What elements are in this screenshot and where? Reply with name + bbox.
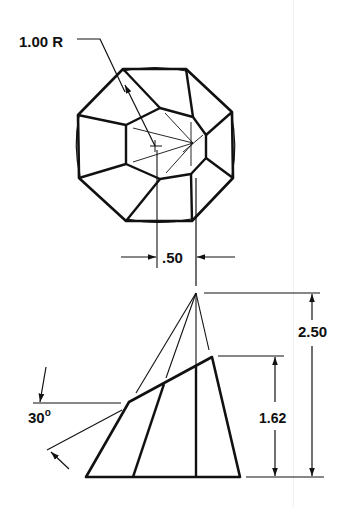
angle-arrow-top (40, 367, 46, 402)
total-height-label: 2.50 (298, 324, 327, 339)
angle-label: 30o (28, 410, 51, 425)
inner-face (126, 108, 206, 179)
offset-dimension-label: .50 (162, 250, 183, 265)
degree-symbol: o (45, 407, 51, 418)
radius-dimension-label: 1.00 R (19, 34, 63, 49)
angle-value: 30 (28, 409, 45, 426)
angle-arrow-bottom (51, 452, 69, 469)
frustum-height-label: 1.62 (259, 411, 286, 425)
technical-drawing: 1.00 R .50 2.50 1.62 30o (0, 0, 363, 507)
radius-leader (77, 39, 125, 92)
side-view (33, 293, 324, 477)
angle-slant-ref (47, 410, 122, 450)
top-view (76, 39, 235, 286)
